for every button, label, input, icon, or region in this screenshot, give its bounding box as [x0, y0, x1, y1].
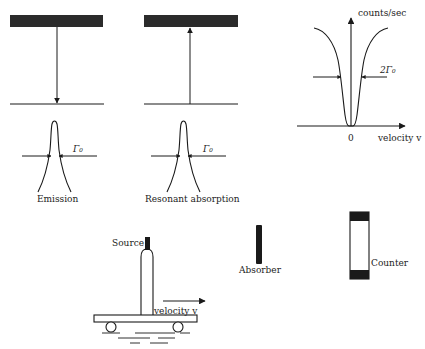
mossbauer-diagram: Γ₀ Emission Γ₀ Resonant absorption 2Γ₀ c… — [0, 0, 425, 349]
source-label: Source — [112, 238, 144, 248]
mossbauer-spectrum-plot: 2Γ₀ counts/sec 0 velocity v — [297, 8, 422, 143]
emission-lineshape: Γ₀ Emission — [22, 121, 97, 204]
counter: Counter — [350, 212, 409, 279]
counter-body — [350, 212, 369, 279]
y-axis-label: counts/sec — [358, 8, 406, 18]
origin-label: 0 — [348, 133, 354, 143]
counter-cap-bottom — [350, 270, 369, 279]
excited-level-bar — [144, 15, 238, 27]
absorption-caption: Resonant absorption — [145, 194, 240, 204]
excited-level-bar — [10, 15, 103, 27]
x-axis-label: velocity v — [377, 133, 422, 143]
source-tip — [145, 237, 150, 250]
cart-wheel-left — [106, 322, 116, 332]
source-rod — [141, 249, 153, 315]
counter-cap-top — [350, 212, 369, 221]
absorption-lineshape: Γ₀ Resonant absorption — [145, 121, 240, 204]
velocity-label: velocity v — [153, 306, 198, 316]
source-cart: Source velocity v — [94, 237, 205, 343]
emission-level-diagram — [10, 15, 104, 104]
absorption-level-diagram — [144, 15, 238, 104]
emission-caption: Emission — [37, 194, 79, 204]
absorber-slab — [256, 225, 262, 264]
width-label: 2Γ₀ — [379, 65, 396, 75]
linewidth-label: Γ₀ — [72, 144, 83, 154]
absorber: Absorber — [238, 225, 282, 275]
linewidth-label: Γ₀ — [202, 144, 213, 154]
cart-platform — [94, 315, 197, 322]
ground-lines — [102, 333, 190, 343]
counter-label: Counter — [371, 258, 409, 268]
cart-wheel-right — [173, 322, 183, 332]
absorber-label: Absorber — [238, 265, 282, 275]
